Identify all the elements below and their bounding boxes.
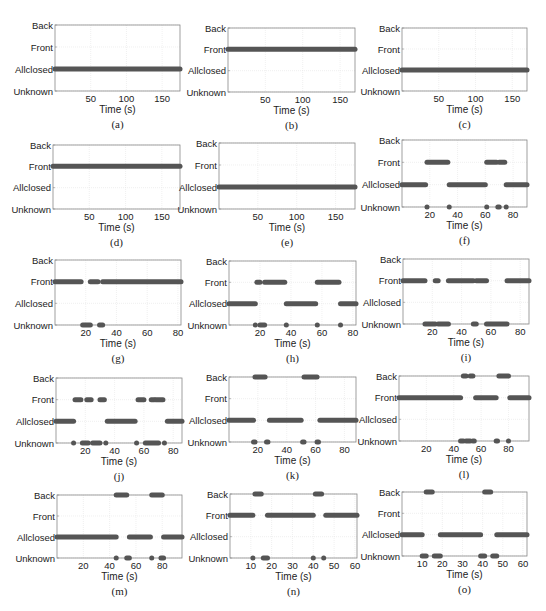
x-tick-label: 10 <box>417 558 428 569</box>
y-tick-label: Front <box>29 161 52 172</box>
x-tick-label: 60 <box>139 445 150 456</box>
x-tick-label: 40 <box>281 444 292 455</box>
x-tick-label: 20 <box>80 327 91 338</box>
x-tick-label: 60 <box>476 443 487 454</box>
x-tick-label: 40 <box>308 560 319 571</box>
y-tick-label: Back <box>205 23 226 34</box>
subplot-caption: (h) <box>273 352 313 364</box>
subplot-caption: (n) <box>274 585 314 597</box>
x-tick-label: 50 <box>253 211 264 222</box>
x-tick-label: 50 <box>84 211 95 222</box>
y-tick-label: Allclosed <box>362 65 400 76</box>
x-tick-label: 40 <box>104 560 115 571</box>
y-tick-label: Unknown <box>187 437 227 448</box>
subplot-caption: (i) <box>446 351 486 363</box>
x-tick-label: 60 <box>486 326 497 337</box>
x-axis-label: Time (s) <box>446 220 482 231</box>
x-tick-label: 40 <box>452 209 463 220</box>
x-tick-label: 20 <box>421 443 432 454</box>
x-tick-label: 60 <box>317 327 328 338</box>
y-tick-label: Back <box>380 254 401 265</box>
x-tick-label: 80 <box>339 444 350 455</box>
x-tick-label: 20 <box>80 445 91 456</box>
x-tick-label: 60 <box>131 560 142 571</box>
y-tick-label: Front <box>378 508 401 519</box>
y-tick-label: Allclosed <box>179 182 217 193</box>
y-tick-label: Back <box>32 20 53 31</box>
x-tick-label: 60 <box>350 560 361 571</box>
x-tick-label: 80 <box>348 327 359 338</box>
subplot-k: UnknownAllclosedFrontBack20406080Time (s… <box>229 377 356 442</box>
y-tick-label: Unknown <box>360 86 400 97</box>
subplot-c: UnknownAllclosedFrontBack50100150Time (s… <box>402 28 527 91</box>
subplot-h: UnknownAllclosedFrontBack20406080Time (s… <box>229 261 356 325</box>
y-tick-label: Back <box>379 135 400 146</box>
x-tick-label: 150 <box>332 94 348 105</box>
y-tick-label: Front <box>33 511 56 522</box>
x-tick-label: 40 <box>109 445 120 456</box>
y-tick-label: Front <box>32 394 55 405</box>
subplot-caption: (k) <box>273 469 313 481</box>
y-tick-label: Unknown <box>361 319 401 330</box>
subplot-caption: (m) <box>100 585 140 597</box>
x-axis-label: Time (s) <box>269 222 305 233</box>
x-tick-label: 50 <box>329 560 340 571</box>
x-tick-label: 40 <box>448 443 459 454</box>
subplot-caption: (b) <box>272 119 312 131</box>
x-tick-label: 50 <box>85 93 96 104</box>
y-tick-label: Allclosed <box>16 416 54 427</box>
x-tick-label: 80 <box>173 327 184 338</box>
subplot-l: UnknownAllclosedFrontBack20406080Time (s… <box>399 376 529 441</box>
x-tick-label: 10 <box>246 560 257 571</box>
x-tick-label: 80 <box>508 209 519 220</box>
y-tick-label: Unknown <box>188 553 228 564</box>
x-tick-label: 30 <box>287 560 298 571</box>
subplot-caption: (o) <box>445 583 485 595</box>
x-axis-label: Time (s) <box>274 338 310 349</box>
x-tick-label: 80 <box>168 445 179 456</box>
y-tick-label: Allclosed <box>190 531 228 542</box>
subplot-n: UnknownAllclosedFrontBack102030405060Tim… <box>230 494 357 558</box>
x-tick-label: 150 <box>154 211 170 222</box>
y-tick-label: Front <box>375 392 398 403</box>
y-tick-label: Front <box>204 44 227 55</box>
x-tick-label: 20 <box>427 326 438 337</box>
x-tick-label: 80 <box>157 560 168 571</box>
x-tick-label: 40 <box>456 326 467 337</box>
x-axis-label: Time (s) <box>101 571 137 582</box>
subplot-caption: (c) <box>445 118 485 130</box>
y-tick-label: Back <box>34 490 55 501</box>
y-tick-label: Unknown <box>357 436 397 447</box>
y-tick-label: Front <box>195 160 218 171</box>
x-tick-label: 100 <box>295 94 311 105</box>
x-axis-label: Time (s) <box>446 104 482 115</box>
y-tick-label: Allclosed <box>15 64 53 75</box>
subplot-i: UnknownAllclosedFrontBack20406080Time (s… <box>403 259 529 324</box>
x-axis-label: Time (s) <box>100 338 136 349</box>
y-tick-label: Allclosed <box>189 298 227 309</box>
x-axis-label: Time (s) <box>275 571 311 582</box>
x-tick-label: 100 <box>468 93 484 104</box>
x-tick-label: 20 <box>437 558 448 569</box>
subplot-caption: (g) <box>98 352 138 364</box>
y-tick-label: Front <box>205 277 228 288</box>
x-tick-label: 40 <box>477 558 488 569</box>
y-tick-label: Unknown <box>360 202 400 213</box>
subplot-j: UnknownAllclosedFrontBack20406080Time (s… <box>56 378 182 443</box>
x-tick-label: 150 <box>328 211 344 222</box>
y-tick-label: Front <box>205 393 228 404</box>
x-tick-label: 50 <box>433 93 444 104</box>
x-tick-label: 100 <box>289 211 305 222</box>
y-tick-label: Back <box>376 371 397 382</box>
subplot-caption: (f) <box>445 234 485 246</box>
y-tick-label: Allclosed <box>13 182 51 193</box>
subplot-d: UnknownAllclosedFrontBack50100150Time (s… <box>53 145 180 209</box>
y-tick-label: Back <box>196 138 217 149</box>
x-tick-label: 80 <box>503 443 514 454</box>
y-tick-label: Back <box>30 140 51 151</box>
x-axis-label: Time (s) <box>446 569 482 580</box>
x-tick-label: 150 <box>504 93 520 104</box>
x-axis-label: Time (s) <box>274 455 310 466</box>
y-tick-label: Unknown <box>360 551 400 562</box>
x-tick-label: 60 <box>518 558 529 569</box>
